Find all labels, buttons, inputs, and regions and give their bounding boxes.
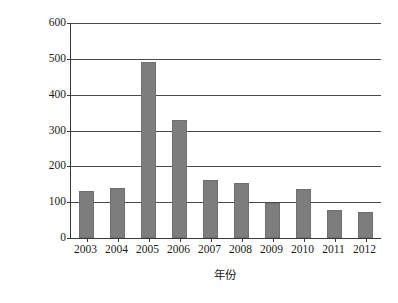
x-axis-tick-label: 2006 <box>167 244 190 256</box>
x-axis-tick-mark <box>149 238 150 242</box>
x-axis-tick-mark <box>366 238 367 242</box>
y-axis-tick-label: 400 <box>49 89 66 101</box>
x-axis-title: 年份 <box>70 266 380 282</box>
x-axis-tick-mark <box>273 238 274 242</box>
x-axis-tick-mark <box>211 238 212 242</box>
x-axis-tick-mark <box>180 238 181 242</box>
bar <box>172 120 187 238</box>
x-axis-tick-label: 2012 <box>353 244 376 256</box>
y-axis-tick-mark <box>67 238 71 239</box>
x-axis-tick-mark <box>118 238 119 242</box>
bar <box>79 191 94 238</box>
bar <box>141 62 156 238</box>
x-axis-tick-mark <box>87 238 88 242</box>
bar-group <box>71 23 381 238</box>
bar <box>265 203 280 238</box>
x-axis-tick-mark <box>242 238 243 242</box>
x-axis-tick-label: 2009 <box>260 244 283 256</box>
y-axis-tick-label: 600 <box>49 17 66 29</box>
bar <box>296 189 311 238</box>
y-axis-tick-label: 500 <box>49 53 66 65</box>
x-axis-tick-mark <box>304 238 305 242</box>
bar <box>234 183 249 238</box>
x-axis-tick-label: 2010 <box>291 244 314 256</box>
bar <box>110 188 125 238</box>
x-axis-tick-label: 2011 <box>322 244 345 256</box>
x-axis-tick-label-group: 2003200420052006200720082009201020112012 <box>70 244 380 260</box>
x-axis-tick-label: 2005 <box>136 244 159 256</box>
bar <box>203 180 218 238</box>
y-axis-tick-label-group: 0100200300400500600 <box>36 23 66 238</box>
y-axis-tick-label: 200 <box>49 161 66 173</box>
x-axis-tick-label: 2008 <box>229 244 252 256</box>
x-axis-tick-label: 2004 <box>105 244 128 256</box>
y-axis-tick-label: 100 <box>49 196 66 208</box>
x-axis-tick-mark <box>335 238 336 242</box>
x-axis-tick-label: 2003 <box>74 244 97 256</box>
y-axis-tick-label: 300 <box>49 125 66 137</box>
x-axis-tick-label: 2007 <box>198 244 221 256</box>
bar <box>327 210 342 238</box>
plot-area <box>70 23 381 239</box>
bar-chart-figure: 海洋灾害死亡人数 / 人 0100200300400500600 2003200… <box>0 0 398 303</box>
y-axis-tick-label: 0 <box>60 232 66 244</box>
bar <box>358 212 373 238</box>
